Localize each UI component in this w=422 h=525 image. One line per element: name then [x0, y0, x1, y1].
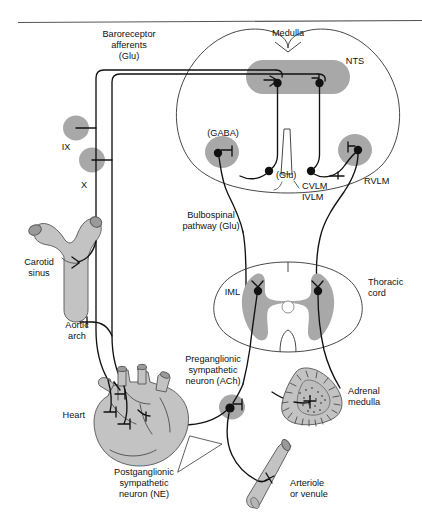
label-baroreceptor-afferents: Baroreceptor: [102, 29, 155, 39]
sympathetic-ganglion-soma: [225, 403, 234, 412]
postganglionic-leader: [178, 436, 222, 472]
cvlm-bracket: [294, 181, 299, 188]
label-bulbospinal: Bulbospinal: [187, 210, 235, 220]
label-postganglionic-line3: neuron (NE): [119, 489, 169, 499]
label-aortic-arch-line2: arch: [68, 331, 86, 341]
arteriole-vessel: [247, 438, 292, 510]
postganglionic-axon-to-arteriole: [227, 413, 258, 481]
cvlm-axon-curve: [240, 174, 266, 179]
label-postganglionic-line2: sympathetic: [119, 478, 168, 488]
label-arteriole-line2: or venule: [290, 489, 328, 499]
label-glu: (Glu): [276, 170, 296, 180]
label-preganglionic: Preganglionic: [185, 354, 241, 364]
iml-neuron-right-soma: [314, 287, 322, 295]
nts-neuron-left-soma: [273, 79, 281, 87]
label-carotid-sinus: Carotid: [24, 257, 54, 267]
nts-region: [246, 60, 350, 94]
label-thoracic-cord-line2: cord: [368, 288, 386, 298]
label-preganglionic-line2: sympathetic: [188, 365, 237, 375]
label-baroreceptor-afferents-line2: afferents: [111, 40, 147, 50]
label-rvlm: RVLM: [364, 176, 389, 186]
label-postganglionic: Postganglionic: [114, 467, 174, 477]
label-nerve-x: X: [81, 180, 87, 190]
label-ivlm: IVLM: [302, 192, 323, 202]
label-iml: IML: [225, 287, 240, 297]
label-adrenal-medulla-line2: medulla: [348, 397, 381, 407]
label-nts: NTS: [346, 56, 364, 66]
nts-left-axon-to-cvlm: [271, 87, 278, 169]
central-canal: [282, 301, 294, 313]
label-gaba: (GABA): [207, 128, 239, 138]
descending-trunk-right: [112, 160, 124, 386]
fourth-ventricle-outline: [281, 129, 292, 174]
ivlm-bracket: [274, 182, 282, 190]
label-thoracic-cord: Thoracic: [368, 277, 404, 287]
label-arteriole: Arteriole: [290, 478, 324, 488]
label-baroreceptor-afferents-line3: (Glu): [119, 51, 139, 61]
label-adrenal-medulla: Adrenal: [348, 386, 380, 396]
label-medulla: Medulla: [272, 28, 305, 38]
label-aortic-arch: Aortic: [65, 320, 89, 330]
medulla-outline: [176, 29, 399, 193]
top-divider-rule: [18, 21, 422, 23]
label-bulbospinal-line2: pathway (Glu): [182, 221, 239, 231]
label-nerve-ix: IX: [62, 142, 71, 152]
afferent-ix-pathway: [76, 70, 276, 128]
nts-right-axon-to-cvlm-ivlm: [313, 87, 320, 169]
bulbospinal-pathway-left: [243, 232, 246, 288]
label-heart: Heart: [63, 410, 86, 420]
iml-neuron-left-soma: [254, 287, 262, 295]
label-carotid-sinus-line2: sinus: [28, 268, 50, 278]
nts-neuron-right-soma: [315, 79, 323, 87]
ventral-median-fissure: [280, 330, 296, 352]
baroreceptor-reflex-figure: Baroreceptor afferents (Glu) Medulla NTS…: [0, 0, 422, 525]
label-cvlm: CVLM: [302, 181, 328, 191]
adrenal-medulla-organ: [282, 368, 342, 426]
label-preganglionic-line3: neuron (ACh): [185, 376, 240, 386]
